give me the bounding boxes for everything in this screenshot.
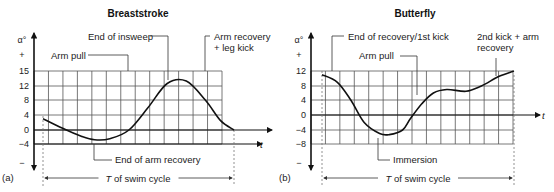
chart-a-ytick-label: 12: [19, 81, 29, 91]
chart-b-ann-end-recovery: End of recovery/1st kick: [348, 31, 449, 42]
chart-a-ann-arm-pull: Arm pull: [51, 50, 86, 61]
chart-b-annotation-leader: [378, 138, 390, 160]
chart-b-plus: +: [296, 50, 301, 60]
chart-a-angle-curve: [43, 79, 234, 140]
chart-b-cycle-text: of swim cycle: [391, 173, 450, 184]
chart-b-ytick-label: −4: [296, 125, 306, 135]
chart-b-ytick-label: 12: [296, 66, 306, 76]
chart-a-minus: −: [19, 158, 24, 168]
chart-b-cycle-label: T of swim cycle: [386, 173, 451, 184]
chart-b-ann-immersion: Immersion: [393, 154, 437, 165]
chart-b-ylabel: α°: [295, 35, 304, 45]
chart-a-plus: +: [19, 50, 24, 60]
chart-b-ytick-label: −8: [296, 139, 306, 149]
chart-b-ytick-label: 8: [301, 81, 306, 91]
chart-b-annotation-leader: [332, 36, 344, 71]
chart-a-panel-label: (a): [2, 172, 14, 183]
chart-b-annotation-leader: [400, 56, 417, 95]
chart-a-ann-arm-recovery: Arm recovery+ leg kick: [214, 31, 271, 53]
chart-b-xlabel: t: [542, 110, 545, 121]
chart-a-annotation-leader: [88, 55, 128, 71]
chart-a-annotation-leader: [150, 36, 168, 80]
chart-a-title: Breaststroke: [107, 8, 169, 19]
chart-a-ann-end-arm-recovery: End of arm recovery: [115, 154, 201, 165]
chart-a-ytick-label: 15: [19, 66, 29, 76]
chart-a-cycle-label: T of swim cycle: [106, 173, 171, 184]
chart-a-ytick-label: −4: [19, 139, 29, 149]
chart-a-annotation-leader: [205, 36, 210, 71]
chart-a-cycle-text: of swim cycle: [111, 173, 170, 184]
chart-a-ytick-label: 4: [24, 110, 29, 120]
chart-b-panel-label: (b): [279, 172, 291, 183]
swim-angle-charts: Breaststroke α° + − (a) Arm pull End of …: [0, 0, 554, 192]
chart-a-ylabel: α°: [18, 35, 27, 45]
chart-b-angle-curve: [322, 71, 514, 135]
chart-b-minus: −: [296, 158, 301, 168]
chart-a-ytick-label: 8: [24, 95, 29, 105]
chart-a-ann-end-insweep: End of insweep: [88, 31, 153, 42]
chart-b-ann-2nd-kick: 2nd kick + armrecovery: [477, 31, 539, 53]
chart-b-ytick-label: 0: [301, 110, 306, 120]
chart-b-ann-arm-pull: Arm pull: [359, 50, 394, 61]
chart-a-annotation-leader: [94, 144, 112, 160]
chart-b-ytick-label: 4: [301, 95, 306, 105]
chart-b-title: Butterfly: [394, 8, 436, 19]
chart-a-ytick-label: 0: [24, 125, 29, 135]
